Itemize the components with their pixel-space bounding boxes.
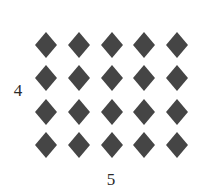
diamond-marker: [35, 132, 57, 158]
diamond-marker: [133, 99, 155, 125]
diamond-marker: [133, 132, 155, 158]
diamond-marker: [35, 99, 57, 125]
diamond-marker: [101, 132, 123, 158]
diamond-row: [35, 99, 187, 132]
diamond-marker: [133, 65, 155, 91]
diamond-marker: [166, 32, 188, 58]
diamond-marker: [68, 99, 90, 125]
column-count-label: 5: [100, 171, 122, 188]
diamond-marker: [166, 99, 188, 125]
diamond-marker: [101, 32, 123, 58]
diamond-marker: [166, 132, 188, 158]
array-diagram: 4 5: [0, 0, 215, 188]
diamond-marker: [35, 32, 57, 58]
diamond-marker: [166, 65, 188, 91]
diamond-grid: [35, 32, 187, 158]
diamond-marker: [101, 99, 123, 125]
diamond-row: [35, 32, 187, 65]
diamond-marker: [68, 32, 90, 58]
diamond-row: [35, 132, 187, 165]
diamond-marker: [68, 132, 90, 158]
diamond-marker: [68, 65, 90, 91]
diamond-row: [35, 65, 187, 98]
diamond-marker: [133, 32, 155, 58]
row-count-label: 4: [9, 82, 27, 100]
diamond-marker: [101, 65, 123, 91]
diamond-marker: [35, 65, 57, 91]
